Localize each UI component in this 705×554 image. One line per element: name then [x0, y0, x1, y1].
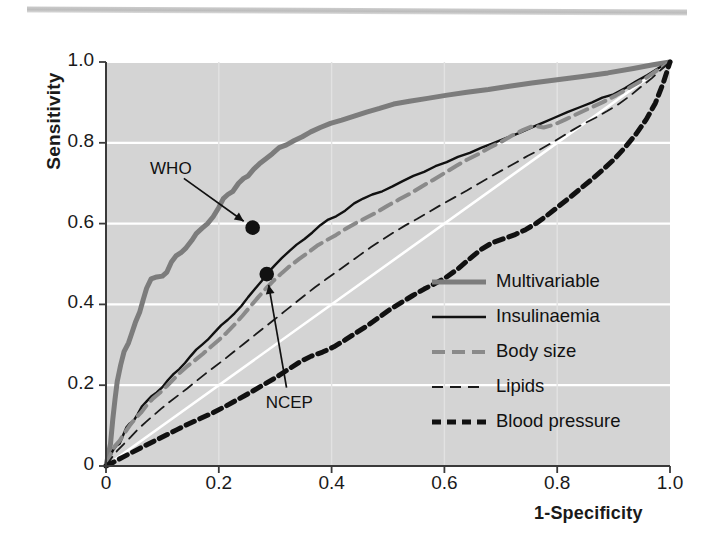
legend-label-multivariable: Multivariable — [496, 270, 600, 291]
legend-label-blood-pressure: Blood pressure — [496, 410, 620, 431]
legend-label-insulinaemia: Insulinaemia — [496, 305, 601, 326]
roc-figure: Sensitivity 1-Specificity 00.20.40.60.81… — [0, 0, 705, 554]
annotation-point-who — [245, 220, 260, 235]
legend-label-lipids: Lipids — [496, 375, 544, 396]
annotation-point-ncep — [259, 267, 274, 282]
annotation-label-ncep: NCEP — [266, 393, 313, 412]
plot-canvas: WHONCEPMultivariableInsulinaemiaBody siz… — [0, 0, 705, 554]
annotation-label-who: WHO — [150, 159, 192, 178]
legend-label-body-size: Body size — [496, 340, 576, 361]
